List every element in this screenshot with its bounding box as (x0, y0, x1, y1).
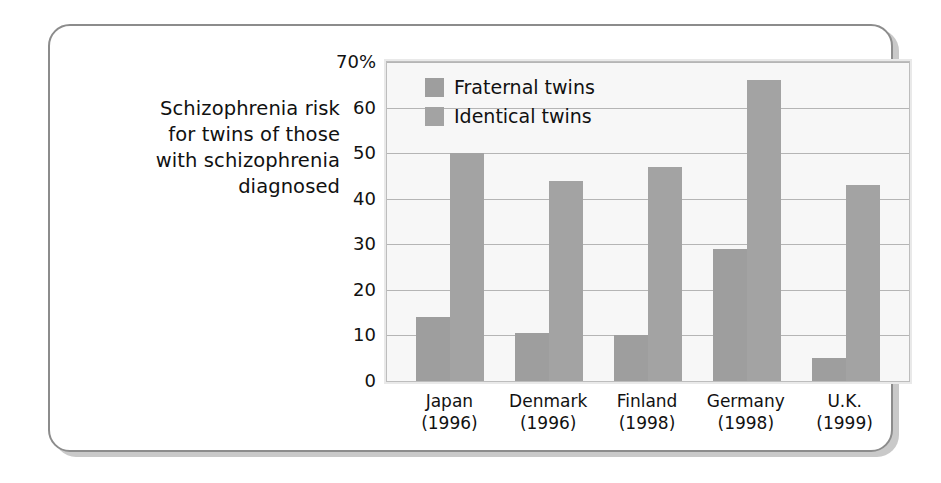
caption-line-1: Schizophrenia risk (90, 96, 340, 122)
bar-finland-identical (648, 167, 682, 381)
y-axis-tick-label: 60 (353, 96, 376, 117)
y-axis-tick-label: 70% (336, 51, 376, 72)
y-axis-tick-label: 30 (353, 233, 376, 254)
caption-line-4: diagnosed (90, 174, 340, 200)
y-axis-tick-label: 20 (353, 278, 376, 299)
x-axis-year: (1998) (707, 413, 785, 435)
legend-item-fraternal: Fraternal twins (425, 76, 595, 98)
bar-finland-fraternal (614, 335, 648, 381)
x-axis-country: Denmark (509, 391, 587, 413)
x-axis-label-uk: U.K.(1999) (816, 391, 873, 435)
y-axis-tick-label: 40 (353, 187, 376, 208)
x-axis-label-finland: Finland(1998) (617, 391, 678, 435)
x-axis-country: Japan (421, 391, 478, 413)
figure-caption: Schizophrenia risk for twins of those wi… (90, 96, 340, 201)
x-axis-year: (1999) (816, 413, 873, 435)
x-axis-country: Finland (617, 391, 678, 413)
x-axis-year: (1998) (617, 413, 678, 435)
plot-area: Fraternal twinsIdentical twins (386, 61, 910, 382)
y-axis-tick-label: 10 (353, 324, 376, 345)
x-axis-country: U.K. (816, 391, 873, 413)
legend-label: Identical twins (454, 105, 592, 127)
legend-item-identical: Identical twins (425, 105, 595, 127)
bar-germany-fraternal (713, 249, 747, 381)
x-axis-label-germany: Germany(1998) (707, 391, 785, 435)
bar-uk-fraternal (812, 358, 846, 381)
bar-denmark-identical (549, 181, 583, 382)
y-axis: 010203040506070% (334, 59, 382, 384)
legend-swatch-icon (425, 107, 444, 126)
bar-uk-identical (846, 185, 880, 381)
bar-japan-fraternal (416, 317, 450, 381)
caption-line-2: for twins of those (90, 122, 340, 148)
bar-denmark-fraternal (515, 333, 549, 381)
x-axis-label-japan: Japan(1996) (421, 391, 478, 435)
bar-chart: 010203040506070% Fraternal twinsIdentica… (334, 59, 912, 449)
y-axis-tick-label: 50 (353, 142, 376, 163)
x-axis-country: Germany (707, 391, 785, 413)
figure-page: Schizophrenia risk for twins of those wi… (0, 0, 941, 483)
chart-legend: Fraternal twinsIdentical twins (425, 76, 595, 134)
legend-swatch-icon (425, 78, 444, 97)
bar-japan-identical (450, 153, 484, 381)
x-axis-label-denmark: Denmark(1996) (509, 391, 587, 435)
x-axis-categories: Japan(1996)Denmark(1996)Finland(1998)Ger… (384, 391, 912, 449)
x-axis-year: (1996) (421, 413, 478, 435)
bar-germany-identical (747, 80, 781, 381)
figure-frame: Schizophrenia risk for twins of those wi… (48, 24, 893, 452)
x-axis-year: (1996) (509, 413, 587, 435)
y-axis-tick-label: 0 (365, 370, 376, 391)
caption-line-3: with schizophrenia (90, 148, 340, 174)
legend-label: Fraternal twins (454, 76, 595, 98)
